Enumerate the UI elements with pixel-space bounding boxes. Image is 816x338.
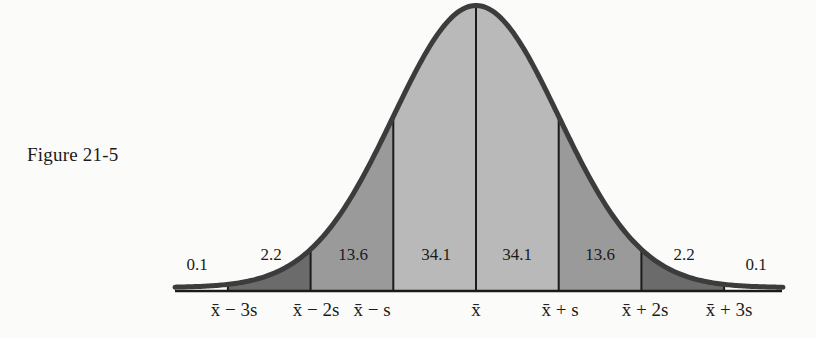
x-axis-tick-labels: x̄ − 3sx̄ − 2sx̄ − sx̄x̄ + sx̄ + 2sx̄ + … — [211, 299, 753, 320]
sd-divider-lines — [228, 8, 724, 291]
band-percent-label: 34.1 — [421, 245, 451, 264]
band-percent-label: 13.6 — [585, 245, 615, 264]
x-tick-label: x̄ − 3s — [211, 299, 258, 320]
x-tick-label: x̄ — [471, 299, 481, 320]
x-tick-label: x̄ + 3s — [706, 299, 753, 320]
band-percent-label: 13.6 — [338, 245, 368, 264]
band-percent-label: 2.2 — [260, 245, 281, 264]
x-tick-label: x̄ + 2s — [622, 299, 669, 320]
x-tick-label: x̄ − s — [353, 299, 390, 320]
band-percent-label: 0.1 — [745, 255, 766, 274]
normal-distribution-chart: 0.12.213.634.134.113.62.20.1 x̄ − 3sx̄ −… — [0, 0, 816, 338]
band-percent-label: 2.2 — [673, 245, 694, 264]
x-tick-label: x̄ − 2s — [293, 299, 340, 320]
band-percent-label: 0.1 — [186, 255, 207, 274]
band-percent-label: 34.1 — [502, 245, 532, 264]
x-tick-label: x̄ + s — [541, 299, 578, 320]
